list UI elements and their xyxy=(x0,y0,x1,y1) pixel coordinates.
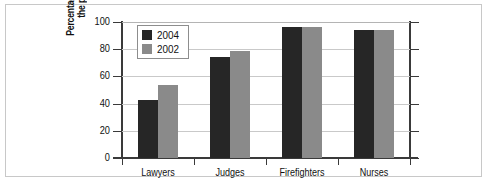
bar-firefighters-2004 xyxy=(282,27,302,158)
y-axis-tick xyxy=(113,22,122,23)
y-axis-tick xyxy=(113,158,122,159)
y-axis-tick-label: 0 xyxy=(87,151,110,163)
bar-judges-2002 xyxy=(230,51,250,158)
y-axis-tick-label: 60 xyxy=(87,69,110,81)
y-axis-tick-right xyxy=(410,104,419,105)
legend-label-2002: 2002 xyxy=(157,43,179,55)
y-axis-tick-label: 100 xyxy=(87,15,110,27)
bar-lawyers-2004 xyxy=(138,100,158,158)
y-axis-tick xyxy=(113,76,122,77)
legend-label-2004: 2004 xyxy=(157,29,179,41)
y-axis-tick-right xyxy=(410,49,419,50)
x-axis-label-nurses: Nurses xyxy=(343,166,405,178)
legend-swatch-2002-icon xyxy=(142,44,152,54)
y-axis-tick-label: 20 xyxy=(87,124,110,136)
legend-swatch-2004-icon xyxy=(142,30,152,40)
y-axis-tick-right xyxy=(410,22,419,23)
y-axis-tick-label: 40 xyxy=(87,97,110,109)
legend-item-2002: 2002 xyxy=(142,43,181,55)
y-axis-tick-right xyxy=(410,158,419,159)
x-axis-label-judges: Judges xyxy=(199,166,261,178)
chart-legend: 2004 2002 xyxy=(137,25,189,59)
x-axis-tick xyxy=(338,159,339,165)
x-axis-label-lawyers: Lawyers xyxy=(127,166,189,178)
x-axis-tick xyxy=(122,159,123,165)
x-axis-label-firefighters: Firefighters xyxy=(271,166,333,178)
chart-figure: Percentage who admire the profession 020… xyxy=(0,0,489,185)
bar-firefighters-2002 xyxy=(302,27,322,158)
y-axis-tick xyxy=(113,104,122,105)
x-axis-tick xyxy=(410,159,411,165)
bar-nurses-2004 xyxy=(354,30,374,158)
y-axis-tick-right xyxy=(410,131,419,132)
bar-judges-2004 xyxy=(210,57,230,158)
x-axis-tick xyxy=(266,159,267,165)
y-axis-tick xyxy=(113,49,122,50)
y-axis-tick-label: 80 xyxy=(87,42,110,54)
bar-lawyers-2002 xyxy=(158,85,178,158)
y-axis-tick xyxy=(113,131,122,132)
y-axis-tick-right xyxy=(410,76,419,77)
bar-nurses-2002 xyxy=(374,30,394,158)
y-axis-tick-labels: 020406080100 xyxy=(82,0,110,185)
x-axis-tick xyxy=(194,159,195,165)
legend-item-2004: 2004 xyxy=(142,29,181,41)
gridline xyxy=(122,22,410,23)
